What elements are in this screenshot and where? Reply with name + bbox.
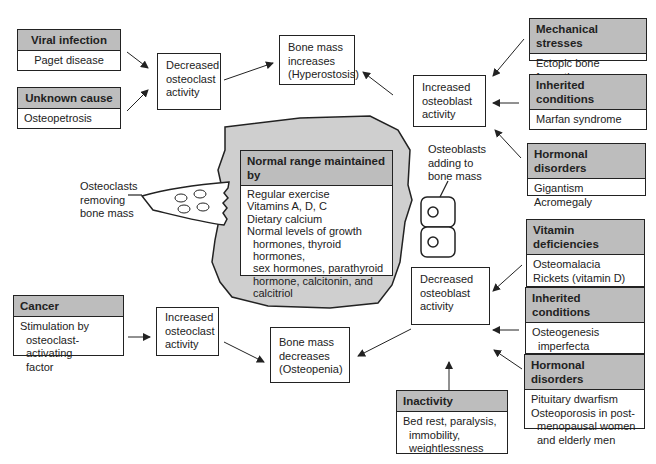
box-line: osteoclast	[165, 325, 210, 339]
cause-item: Bed rest, paralysis,	[403, 415, 501, 429]
box-line: increases	[288, 55, 346, 69]
cause-item: Osteopetrosis	[24, 112, 114, 126]
increased-osteoclast-box: Increased osteoclast activity	[156, 307, 219, 356]
normal-range-title: Normal range maintained by	[241, 151, 392, 186]
cancer-box: Cancer Stimulation by osteoclast-activat…	[13, 295, 124, 356]
box-line: Bone mass	[288, 41, 346, 55]
box-line: osteoblast	[422, 95, 477, 109]
inherited-conditions-up-box: Inherited conditions Marfan syndrome	[529, 74, 647, 130]
mechanical-stresses-box: Mechanical stresses Ectopic bone formati…	[529, 18, 647, 61]
box-line: activity	[166, 86, 212, 100]
cause-title: Inherited conditions	[530, 75, 646, 110]
normal-range-item: calcitriol	[247, 287, 386, 299]
box-line: (Osteopenia)	[279, 363, 341, 377]
label-line: removing	[80, 194, 137, 208]
box-line: Increased	[422, 81, 477, 95]
osteoclast-cell	[142, 182, 229, 225]
cause-item: Osteomalacia	[533, 258, 638, 272]
cause-item: immobility,	[403, 429, 501, 443]
cause-title: Unknown cause	[18, 88, 120, 109]
normal-range-item: hormone, calcitonin, and	[247, 275, 386, 287]
osteoclasts-label: Osteoclasts removing bone mass	[80, 180, 137, 221]
box-line: Bone mass	[279, 336, 341, 350]
normal-range-item: Regular exercise	[247, 188, 386, 200]
label-line: Osteoblasts	[428, 143, 486, 157]
inactivity-box: Inactivity Bed rest, paralysis, immobili…	[396, 390, 508, 454]
bone-mass-increases-box: Bone mass increases (Hyperostosis)	[279, 35, 355, 85]
cause-item: Pituitary dwarfism	[531, 393, 638, 407]
box-line: osteoclast	[166, 73, 212, 87]
box-line: Decreased	[420, 273, 481, 287]
hormonal-disorders-up-box: Hormonal disorders Gigantism Acromegaly	[527, 143, 646, 196]
unknown-cause-box: Unknown cause Osteopetrosis	[17, 87, 121, 129]
label-line: Osteoclasts	[80, 180, 137, 194]
cause-title: Inherited conditions	[526, 288, 644, 323]
cause-title: Vitamin deficiencies	[527, 220, 644, 255]
cause-item: osteoclast-activating	[20, 334, 117, 361]
cause-item: Osteogenesis	[532, 326, 638, 340]
cause-title: Inactivity	[397, 391, 507, 412]
inherited-conditions-down-box: Inherited conditions Osteogenesis imperf…	[525, 287, 645, 354]
normal-range-item: Dietary calcium	[247, 213, 386, 225]
normal-range-item: Vitamins A, D, C	[247, 200, 386, 212]
decreased-osteoclast-box: Decreased osteoclast activity	[157, 53, 221, 110]
viral-infection-box: Viral infection Paget disease	[17, 29, 121, 71]
box-line: decreases	[279, 350, 341, 364]
box-line: Increased	[165, 311, 210, 325]
increased-osteoblast-box: Increased osteoblast activity	[413, 75, 486, 127]
box-line: osteoblast	[420, 287, 481, 301]
box-line: Decreased	[166, 59, 212, 73]
cause-item: Gigantism	[534, 182, 639, 196]
cause-item: Osteoporosis in post-	[531, 407, 638, 421]
normal-range-item: hormones, thyroid hormones,	[247, 238, 386, 263]
normal-range-item: sex hormones, parathyroid	[247, 262, 386, 274]
box-line: activity	[422, 108, 477, 122]
label-line: bone mass	[428, 170, 486, 184]
cause-title: Hormonal disorders	[525, 355, 644, 390]
cause-item: Stimulation by	[20, 320, 117, 334]
osteoblasts-label: Osteoblasts adding to bone mass	[428, 143, 486, 184]
cause-item: weightlessness	[403, 442, 501, 456]
vitamin-deficiencies-box: Vitamin deficiencies Osteomalacia Ricket…	[526, 219, 645, 287]
normal-range-item: Normal levels of growth	[247, 225, 386, 237]
cause-title: Cancer	[14, 296, 123, 317]
cause-item: and elderly men	[531, 434, 638, 448]
label-line: bone mass	[80, 207, 137, 221]
bone-mass-decreases-box: Bone mass decreases (Osteopenia)	[270, 327, 350, 383]
cause-title: Hormonal disorders	[528, 144, 645, 179]
cause-item: Acromegaly	[534, 196, 639, 210]
box-line: activity	[165, 338, 210, 352]
cause-item: Rickets (vitamin D)	[533, 272, 638, 286]
box-line: (Hyperostosis)	[288, 68, 346, 82]
box-line: activity	[420, 300, 481, 314]
cause-item: imperfecta	[532, 340, 638, 354]
osteoblast-cells	[421, 197, 455, 257]
cause-item: Paget disease	[24, 54, 114, 68]
cause-item: Marfan syndrome	[536, 113, 640, 127]
normal-range-box: Normal range maintained by Regular exerc…	[240, 150, 393, 276]
cause-item: menopausal women	[531, 420, 638, 434]
cause-title: Mechanical stresses	[530, 19, 646, 54]
decreased-osteoblast-box: Decreased osteoblast activity	[411, 267, 490, 325]
label-line: adding to	[428, 157, 486, 171]
cause-item: factor	[20, 361, 117, 375]
cause-title: Viral infection	[18, 30, 120, 51]
hormonal-disorders-down-box: Hormonal disorders Pituitary dwarfism Os…	[524, 354, 645, 429]
